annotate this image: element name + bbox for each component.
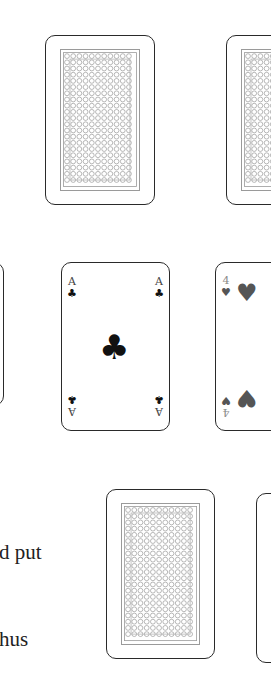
card-back-1[interactable] [45,35,155,205]
rank-label: A [155,406,163,417]
card-back-pattern [241,49,271,190]
corner-top-left: 4 ♥ [221,275,231,298]
club-icon: ♣ [67,288,77,299]
rank-label: 4 [222,407,229,418]
card-back-3[interactable] [106,489,215,659]
heart-icon: ♥ [236,281,258,305]
corner-top-right: A ♣ [154,276,164,299]
club-icon: ♣ [154,394,164,405]
club-icon: ♣ [67,394,77,405]
instruction-text-line-2: hus [0,627,28,652]
club-icon: ♣ [154,288,164,299]
corner-bottom-left: 4 ♥ [221,395,231,418]
corner-bottom-left: A ♣ [67,394,77,417]
club-icon: ♣ [99,330,129,364]
heart-icon: ♥ [236,386,258,410]
rank-label: 4 [222,275,229,286]
card-back-pattern [121,503,200,644]
corner-top-left: A ♣ [67,276,77,299]
card-ace-of-clubs[interactable]: A ♣ A ♣ ♣ A ♣ A ♣ [61,262,170,431]
instruction-text-line-1: d put [0,540,42,565]
card-back-4[interactable] [256,493,271,663]
card-back-pattern [60,49,140,190]
rank-label: A [155,276,163,287]
card-partial-left[interactable] [0,262,4,406]
rank-label: A [68,406,76,417]
heart-icon: ♥ [221,287,231,298]
rank-label: A [68,276,76,287]
corner-bottom-right: A ♣ [154,394,164,417]
card-four-of-hearts[interactable]: 4 ♥ ♥ 4 ♥ ♥ [215,262,271,431]
heart-icon: ♥ [221,395,231,406]
card-back-2[interactable] [226,35,271,205]
